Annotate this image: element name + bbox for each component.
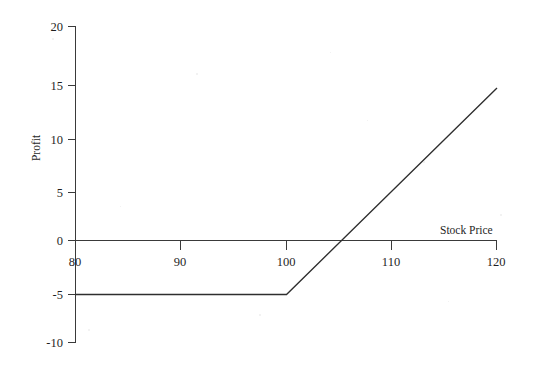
y-tick-label-0: 0 (57, 234, 63, 248)
y-axis-title: Profit (30, 134, 42, 161)
x-tick-label-110: 110 (382, 255, 400, 269)
profit-payoff-chart: 20 15 10 5 0 -5 -10 80 90 100 110 120 St… (0, 0, 536, 366)
x-tick-label-120: 120 (487, 255, 506, 269)
y-tick-label-5: 5 (57, 186, 63, 200)
x-tick-marks (76, 241, 497, 251)
y-tick-label-neg10: -10 (46, 336, 63, 350)
x-tick-label-80: 80 (69, 255, 82, 269)
y-tick-label-neg5: -5 (53, 288, 63, 302)
x-tick-label-90: 90 (174, 255, 187, 269)
y-tick-marks (68, 27, 76, 343)
y-tick-label-15: 15 (51, 79, 64, 93)
y-tick-label-10: 10 (51, 133, 64, 147)
x-tick-label-100: 100 (277, 255, 296, 269)
x-axis-title: Stock Price (440, 224, 493, 236)
chart-container: 20 15 10 5 0 -5 -10 80 90 100 110 120 St… (0, 0, 536, 366)
y-tick-label-20: 20 (51, 20, 64, 34)
